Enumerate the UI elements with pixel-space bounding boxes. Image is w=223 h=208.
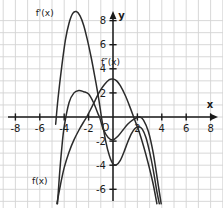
curve-label-f-double-prime: f″(x) — [101, 57, 120, 67]
x-tick-label-3: -2 — [84, 123, 94, 134]
y-tick-label-5: -4 — [96, 160, 106, 171]
y-tick-label-0: 8 — [100, 15, 106, 26]
plot-canvas: -8-6-4-224688642-2-4-6Oxyf(x)f'(x)f″(x) — [0, 0, 223, 208]
x-tick-label-7: 8 — [207, 123, 213, 134]
x-tick-label-0: -8 — [10, 123, 20, 134]
x-tick-label-5: 4 — [159, 123, 165, 134]
x-tick-label-6: 6 — [183, 123, 189, 134]
y-tick-label-6: -6 — [96, 184, 106, 195]
y-tick-label-1: 6 — [100, 39, 106, 50]
x-axis-label: x — [207, 99, 214, 110]
curve-label-f: f(x) — [32, 176, 48, 186]
x-tick-label-1: -6 — [35, 123, 45, 134]
y-axis-label: y — [118, 10, 125, 21]
graph-figure: -8-6-4-224688642-2-4-6Oxyf(x)f'(x)f″(x) — [0, 0, 223, 208]
curve-label-f-prime: f'(x) — [36, 8, 54, 18]
